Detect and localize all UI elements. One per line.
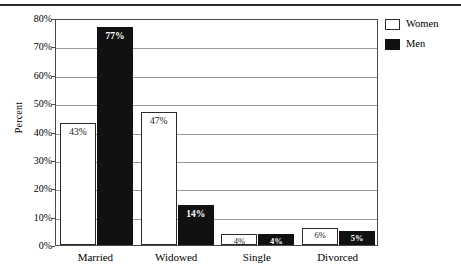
x-axis-category-labels: MarriedWidowedSingleDivorced	[55, 250, 378, 268]
bar-married-women[interactable]: 43%	[60, 123, 96, 245]
black-square-swatch	[385, 39, 400, 50]
white-square-swatch	[385, 19, 400, 30]
y-axis-tick-label: 50%	[2, 99, 52, 109]
bar-value-label: 14%	[179, 209, 213, 219]
bar-value-label: 5%	[340, 233, 374, 243]
category-label-divorced: Divorced	[297, 250, 378, 264]
legend-label: Men	[406, 38, 425, 50]
bar-value-label: 4%	[259, 236, 293, 246]
y-axis-tick-label: 30%	[2, 156, 52, 166]
y-axis-tick-label: 80%	[2, 14, 52, 24]
legend-label: Women	[406, 18, 438, 30]
y-axis-tick-label: 70%	[2, 42, 52, 52]
bar-value-label: 4%	[222, 236, 256, 246]
category-label-married: Married	[55, 250, 136, 264]
y-axis-tick-label: 10%	[2, 213, 52, 223]
category-label-single: Single	[217, 250, 298, 264]
bar-divorced-women[interactable]: 6%	[302, 228, 338, 245]
plot-area: 43%77%47%14%4%4%6%5%	[55, 19, 378, 246]
y-axis-tick-label: 60%	[2, 71, 52, 81]
bar-widowed-women[interactable]: 47%	[141, 112, 177, 245]
chart-legend: WomenMen	[385, 16, 459, 56]
category-label-widowed: Widowed	[136, 250, 217, 264]
bar-value-label: 43%	[61, 127, 95, 137]
bar-single-women[interactable]: 4%	[221, 234, 257, 245]
bar-divorced-men[interactable]: 5%	[339, 231, 375, 245]
bar-value-label: 47%	[142, 116, 176, 126]
bar-value-label: 77%	[98, 31, 132, 41]
bar-chart-figure: Percent 80%70%60%50%40%30%20%10%0% 43%77…	[0, 0, 461, 270]
y-axis-tick-label: 20%	[2, 184, 52, 194]
y-axis-tick-label: 40%	[2, 128, 52, 138]
bar-widowed-men[interactable]: 14%	[178, 205, 214, 245]
y-axis-tick-label: 0%	[2, 241, 52, 251]
y-axis-tick-labels: 80%70%60%50%40%30%20%10%0%	[0, 19, 52, 246]
legend-item-women[interactable]: Women	[385, 16, 459, 32]
bar-single-men[interactable]: 4%	[258, 234, 294, 245]
bar-value-label: 6%	[303, 230, 337, 240]
legend-item-men[interactable]: Men	[385, 36, 459, 52]
bar-married-men[interactable]: 77%	[97, 27, 133, 245]
y-axis-tick-mark	[51, 246, 55, 247]
